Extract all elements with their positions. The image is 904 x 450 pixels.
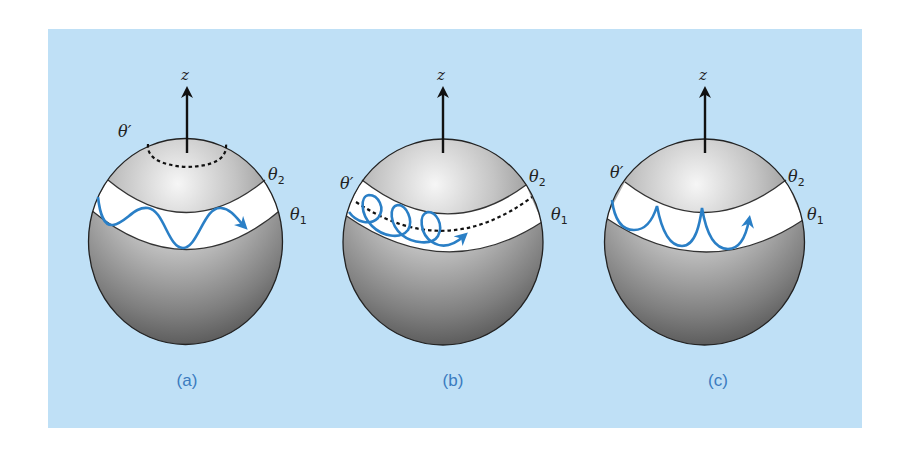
panel-b: z θ′ θ2 θ1 (b) [340, 66, 568, 390]
z-label-a: z [180, 66, 189, 84]
z-label-c: z [698, 66, 707, 84]
theta-prime-label-a: θ′ [118, 122, 132, 141]
panel-c: z θ′ θ2 θ1 (c) [605, 66, 824, 390]
theta-prime-label-b: θ′ [340, 174, 354, 193]
z-label-b: z [436, 66, 445, 84]
theta1-label-b: θ1 [551, 205, 568, 227]
caption-b: (b) [443, 371, 464, 390]
theta2-label-b: θ2 [529, 167, 546, 189]
theta2-label-c: θ2 [788, 167, 805, 189]
theta1-label-a: θ1 [290, 205, 307, 227]
theta2-label-a: θ2 [268, 165, 285, 187]
theta1-label-c: θ1 [807, 205, 824, 227]
panel-a: z θ′ θ2 θ1 (a) [89, 66, 307, 390]
caption-c: (c) [708, 371, 728, 390]
theta-prime-label-c: θ′ [610, 163, 624, 182]
sphere-motion-figure: z θ′ θ2 θ1 (a) z θ′ θ2 θ1 (b) z θ′ θ2 [0, 0, 904, 450]
caption-a: (a) [177, 371, 198, 390]
